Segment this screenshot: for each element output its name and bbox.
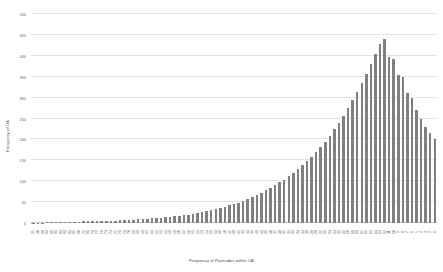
x-axis-tick-label: 49 — [218, 230, 222, 234]
x-axis-tick-label: 37 — [273, 230, 277, 234]
x-axis-tick-label: 24 — [328, 230, 332, 234]
bar — [388, 57, 391, 223]
x-axis-tick-label: 50 — [223, 230, 227, 234]
x-axis-tick-label: 80 — [77, 230, 81, 234]
y-axis-tick-label: 50 — [22, 200, 26, 205]
bar — [397, 75, 400, 223]
x-axis-tick-label: 41 — [255, 230, 259, 234]
bar — [347, 108, 350, 223]
y-axis-tick-label: 100 — [20, 179, 27, 184]
x-axis-tick-label: 22 — [337, 230, 341, 234]
y-axis-tick-labels: 050100150200250300350400450500 — [0, 14, 29, 223]
x-axis-tick-label: 44 — [250, 230, 254, 234]
bar — [329, 136, 332, 223]
x-axis-tick-label: 48 — [232, 230, 236, 234]
bar — [151, 218, 154, 223]
x-axis-tick-label: 71 — [118, 230, 122, 234]
bar — [411, 98, 414, 223]
bar — [160, 218, 163, 223]
x-axis-tick-label: 18 — [355, 230, 359, 234]
x-axis-tick-label: 69 — [136, 230, 140, 234]
x-axis-tick-label: 35 — [282, 230, 286, 234]
y-axis-tick-label: 150 — [20, 158, 27, 163]
x-axis-tick-label: 93 — [45, 230, 49, 234]
bar — [87, 221, 90, 223]
bar — [333, 129, 336, 223]
bar — [119, 220, 122, 223]
bar — [246, 199, 249, 223]
bar — [110, 221, 113, 224]
x-axis-tick-label: 53 — [200, 230, 204, 234]
bar — [69, 222, 72, 223]
bar — [155, 218, 158, 223]
x-axis-tick-label: 67 — [145, 230, 149, 234]
bar — [301, 165, 304, 223]
bar — [132, 220, 135, 223]
y-axis-tick-label: 400 — [20, 53, 27, 58]
x-axis-tick-label: 77 — [95, 230, 99, 234]
bar — [260, 193, 263, 223]
bar — [306, 161, 309, 223]
bar — [406, 93, 409, 223]
x-axis-tick-label: 73 — [109, 230, 113, 234]
bar — [361, 83, 364, 223]
x-axis-tick-label: 70 — [127, 230, 131, 234]
x-tick-slot: 1 — [433, 226, 438, 252]
y-axis-tick-label: 200 — [20, 137, 27, 142]
bar — [251, 197, 254, 223]
x-axis-tick-label: 33 — [291, 230, 295, 234]
bar — [319, 147, 322, 223]
x-axis-title: Frequency of Postcodes within OA — [0, 258, 443, 263]
bar — [242, 201, 245, 223]
plot-area — [31, 14, 437, 223]
y-axis-tick-label: 0 — [24, 221, 26, 226]
x-axis-tick-label: 75 — [113, 230, 117, 234]
bar — [424, 127, 427, 223]
bar — [233, 204, 236, 223]
x-axis-tick-label: 9 — [396, 231, 400, 233]
bar — [142, 219, 145, 223]
bar — [370, 64, 373, 223]
bar — [91, 221, 94, 223]
bar — [210, 210, 213, 223]
bar — [41, 223, 44, 224]
bar — [46, 222, 49, 223]
x-axis-tick-label: 62 — [159, 230, 163, 234]
bar — [196, 213, 199, 223]
bar — [342, 116, 345, 223]
x-axis-tick-label: 47 — [227, 230, 231, 234]
bar — [114, 221, 117, 224]
bar — [146, 219, 149, 223]
bar — [278, 182, 281, 223]
bar — [50, 222, 53, 223]
bar — [288, 176, 291, 223]
bar — [219, 208, 222, 223]
bar — [228, 205, 231, 223]
x-axis-tick-label: 4 — [419, 231, 423, 233]
bar — [265, 190, 268, 223]
bar — [356, 92, 359, 223]
bar — [310, 157, 313, 223]
bar-chart: Frequency of OA 050100150200250300350400… — [0, 0, 443, 272]
x-axis-tick-label: 13 — [378, 230, 382, 234]
x-axis-tick-label: 11 — [387, 230, 391, 234]
bar — [392, 59, 395, 223]
bar — [164, 217, 167, 223]
x-axis-tick-label: 31 — [305, 230, 309, 234]
bar — [128, 220, 131, 223]
x-axis-tick-label: 34 — [296, 230, 300, 234]
bar — [420, 119, 423, 224]
bar — [178, 216, 181, 223]
x-axis-tick-label: 86 — [54, 230, 58, 234]
bar — [73, 222, 76, 223]
bar — [292, 173, 295, 223]
bar — [379, 44, 382, 223]
bar — [374, 54, 377, 223]
bar — [351, 100, 354, 223]
x-axis-tick-label: 64 — [150, 230, 154, 234]
bar — [383, 39, 386, 223]
x-axis-tick-labels: 2530989391868983828580768179777874737571… — [31, 226, 437, 252]
bar — [82, 221, 85, 223]
bar — [64, 222, 67, 223]
bar — [37, 223, 40, 224]
